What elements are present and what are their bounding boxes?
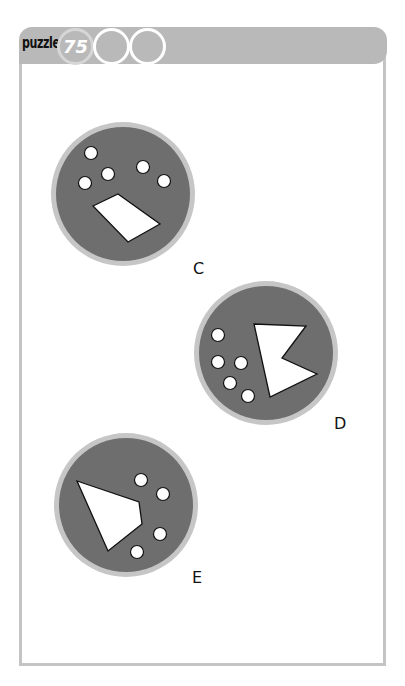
puzzle-figures — [0, 0, 405, 686]
dot — [79, 177, 92, 190]
dot — [242, 390, 255, 403]
dot — [137, 161, 150, 174]
option-label-e: E — [192, 568, 202, 587]
dot — [235, 357, 248, 370]
circle-disk — [56, 127, 190, 261]
option-figure-d[interactable] — [194, 281, 338, 425]
dot — [85, 147, 98, 160]
dot — [131, 546, 144, 559]
dot — [158, 175, 171, 188]
dot — [212, 329, 225, 342]
dot — [212, 356, 225, 369]
option-figure-c[interactable] — [51, 122, 195, 266]
dot — [224, 377, 237, 390]
option-figure-e[interactable] — [54, 433, 198, 577]
option-label-c: C — [193, 259, 204, 278]
dot — [154, 528, 167, 541]
dot — [102, 168, 115, 181]
dot — [135, 474, 148, 487]
option-label-d: D — [334, 414, 346, 433]
dot — [157, 488, 170, 501]
